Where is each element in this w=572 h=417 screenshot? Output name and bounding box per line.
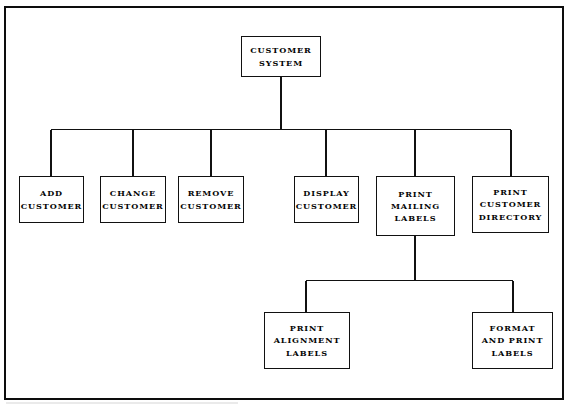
node-add-customer[interactable]: ADD CUSTOMER	[19, 176, 84, 223]
node-print-mailing-labels[interactable]: PRINT MAILING LABELS	[376, 176, 455, 236]
node-format-and-print-labels[interactable]: FORMAT AND PRINT LABELS	[472, 312, 553, 369]
diagram-canvas: CUSTOMER SYSTEM ADD CUSTOMER CHANGE CUST…	[0, 0, 572, 417]
node-change-customer[interactable]: CHANGE CUSTOMER	[100, 176, 166, 223]
node-display-customer[interactable]: DISPLAY CUSTOMER	[294, 176, 359, 223]
node-remove-customer[interactable]: REMOVE CUSTOMER	[178, 176, 244, 223]
node-print-alignment-labels[interactable]: PRINT ALIGNMENT LABELS	[264, 312, 350, 369]
node-print-customer-directory[interactable]: PRINT CUSTOMER DIRECTORY	[472, 176, 549, 233]
node-customer-system[interactable]: CUSTOMER SYSTEM	[241, 36, 321, 77]
